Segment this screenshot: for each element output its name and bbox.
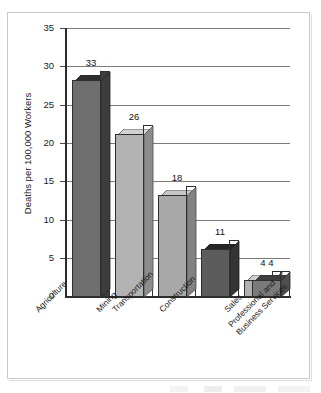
y-tick-label-5: 5 [26,253,54,263]
y-tick-mark-15 [60,181,65,182]
bar-front-agriculture [72,80,101,297]
bar-agriculture[interactable] [72,28,110,297]
bar-transportation[interactable] [158,28,196,297]
bar-mining[interactable] [115,28,153,297]
bar-side-construction [229,240,239,297]
y-tick-mark-30 [60,66,65,67]
bar-value-mining: 26 [115,112,153,122]
y-tick-mark-25 [60,105,65,106]
bar-value-agriculture: 33 [72,58,110,68]
y-tick-mark-10 [60,220,65,221]
bar-value-professional-and-business-services: 4 [252,258,290,268]
y-axis-title: Deaths per 100,000 Workers [22,79,33,229]
y-tick-label-30: 30 [26,61,54,71]
bar-side-agriculture [100,71,110,297]
y-axis-line [65,28,67,297]
bar-front-construction [201,249,230,297]
bar-value-transportation: 18 [158,173,196,183]
page-bottom-text-fragment [170,386,310,392]
bar-value-construction: 11 [201,227,239,237]
y-tick-mark-20 [60,143,65,144]
y-tick-mark-5 [60,258,65,259]
bar-front-mining [115,134,144,297]
bar-professional-and-business-services[interactable] [287,28,321,297]
bar-construction[interactable] [201,28,239,297]
chart-page: 35 30 25 20 15 10 5 0 Deaths per 100,000… [0,0,321,393]
bar-chart-plot-area: 35 30 25 20 15 10 5 0 Deaths per 100,000… [0,0,321,393]
y-tick-mark-35 [60,28,65,29]
y-tick-label-35: 35 [26,23,54,33]
